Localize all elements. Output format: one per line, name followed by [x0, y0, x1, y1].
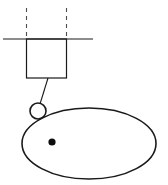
line-drawing-figure — [0, 0, 168, 185]
center-dot — [48, 138, 55, 145]
diagram-canvas — [0, 0, 168, 185]
canvas-background — [0, 0, 168, 185]
